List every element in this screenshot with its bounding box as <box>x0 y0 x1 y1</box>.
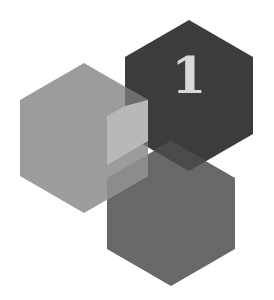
numeral-one: 1 <box>172 46 207 105</box>
hexagon-logo: 1 <box>0 0 274 300</box>
hexagon-cluster-graphic: 1 <box>0 0 274 300</box>
